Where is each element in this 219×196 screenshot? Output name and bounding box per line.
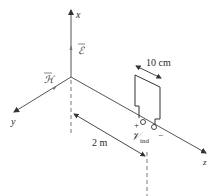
z-axis-label: z [202, 157, 207, 167]
x-axis-label: x [75, 9, 81, 20]
e-field-label: ℰ [78, 45, 85, 56]
voltage-subscript: ind [140, 137, 149, 145]
y-axis-label: y [10, 116, 16, 127]
y-axis [14, 77, 71, 112]
wire-loop [135, 75, 160, 126]
plus-sign: + [134, 120, 139, 130]
minus-terminal [152, 125, 157, 130]
loop-width-label: 10 cm [146, 57, 171, 68]
h-field-label: ℋ [44, 74, 56, 85]
plus-terminal [141, 120, 146, 125]
e-field-arrow-icon [70, 45, 73, 50]
minus-sign: − [158, 130, 163, 140]
em-wave-loop-diagram: x ℰ y ℋ z 2 m 10 cm + − 𝒱 ind [0, 0, 219, 196]
distance-label: 2 m [92, 137, 108, 148]
